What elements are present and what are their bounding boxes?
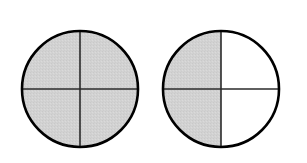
figure-canvas: [0, 0, 307, 163]
circle-right: [163, 31, 279, 147]
circle-left: [22, 31, 138, 147]
fraction-circles-figure: [0, 0, 307, 163]
